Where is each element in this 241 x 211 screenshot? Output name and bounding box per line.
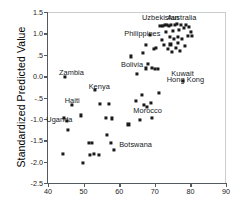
scatter-plot-figure: Standardized Predicted Value 1.51.0.50.0… [0, 0, 241, 211]
data-point [110, 117, 113, 120]
data-point [127, 123, 130, 126]
data-point [107, 103, 110, 106]
data-point [160, 39, 163, 42]
data-point [190, 34, 193, 37]
x-axis-tick-label: 80 [186, 187, 194, 196]
data-point [109, 141, 112, 144]
plot-area: 1.51.0.50.0-.5-1.0-1.5-2.0-2.5 405060708… [47, 12, 226, 184]
y-axis-tick-label: 1.0 [33, 29, 43, 38]
data-point [139, 118, 142, 121]
data-point [179, 49, 182, 52]
data-point [142, 51, 145, 54]
data-point [177, 41, 180, 44]
data-point [144, 43, 147, 46]
data-point [90, 141, 93, 144]
x-axis-tick-label: 40 [44, 187, 52, 196]
data-point [149, 101, 152, 104]
data-point [183, 45, 186, 48]
data-point [140, 93, 143, 96]
data-point [168, 36, 171, 39]
data-point [164, 30, 167, 33]
data-point [180, 37, 183, 40]
point-annotation-label: Philippines [124, 28, 160, 37]
data-point [170, 23, 173, 26]
data-point [158, 92, 161, 95]
y-axis-tick-label: -2.5 [31, 179, 43, 188]
data-point [155, 46, 158, 49]
x-axis-tick-label: 90 [222, 187, 230, 196]
data-point [166, 48, 169, 51]
data-point [186, 35, 189, 38]
data-point [105, 133, 108, 136]
point-annotation-label: Uganda [46, 114, 72, 123]
data-point [176, 35, 179, 38]
data-point [79, 114, 82, 117]
data-point [145, 67, 148, 70]
point-annotation-label: Botswana [119, 139, 152, 148]
y-axis-tick-label: -2.0 [31, 157, 43, 166]
data-point [61, 153, 64, 156]
x-axis-tick-label: 60 [115, 187, 123, 196]
y-axis-title: Standardized Predicted Value [14, 4, 28, 190]
point-annotation-label: Haiti [65, 95, 80, 104]
y-axis-tick-label: -1.5 [31, 136, 43, 145]
data-point [182, 27, 185, 30]
x-axis-tick-label: 70 [151, 187, 159, 196]
plot-top-border [48, 12, 226, 13]
data-point [81, 162, 84, 165]
plot-right-border [225, 12, 226, 183]
data-point [163, 44, 166, 47]
data-point [175, 23, 178, 26]
point-annotation-label: Australia [167, 13, 196, 22]
data-point [136, 72, 139, 75]
data-point [189, 30, 192, 33]
data-point [98, 103, 101, 106]
point-annotation-label: Morocco [133, 106, 162, 115]
point-annotation-label: Hong Kong [167, 74, 204, 83]
y-axis-tick [44, 76, 48, 77]
y-axis-tick [44, 55, 48, 56]
y-axis-tick-label: 1.5 [33, 8, 43, 17]
data-point [147, 63, 150, 66]
y-axis-tick [44, 33, 48, 34]
data-point [178, 29, 181, 32]
point-annotation-label: Zambia [59, 67, 84, 76]
data-point [172, 30, 175, 33]
data-point [156, 67, 159, 70]
point-annotation-label: Kenya [89, 82, 110, 91]
data-point [67, 128, 70, 131]
data-point [129, 55, 132, 58]
point-annotation-label: Bolivia [121, 60, 143, 69]
data-point [151, 116, 154, 119]
y-axis-tick-label: 0.0 [33, 72, 43, 81]
y-axis-tick-label: -.5 [35, 93, 43, 102]
y-axis-tick [44, 12, 48, 13]
data-point [112, 148, 115, 151]
data-point [92, 153, 95, 156]
y-axis-tick [44, 162, 48, 163]
y-axis-tick-label: .5 [37, 50, 43, 59]
data-point [171, 51, 174, 54]
data-point [187, 25, 190, 28]
data-point [135, 100, 138, 103]
data-point [169, 43, 172, 46]
data-point [97, 153, 100, 156]
data-point [174, 46, 177, 49]
y-axis-tick [44, 140, 48, 141]
y-axis-tick-label: -1.0 [31, 114, 43, 123]
y-axis-tick [44, 98, 48, 99]
data-point [104, 116, 107, 119]
x-axis-tick-label: 50 [80, 187, 88, 196]
